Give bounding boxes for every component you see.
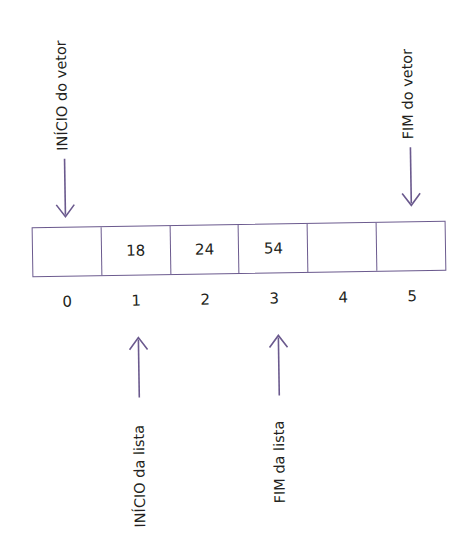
vector-start-label: INÍCIO do vetor <box>53 40 71 151</box>
array-index: 0 <box>33 292 102 311</box>
arrow-up-icon <box>126 335 151 401</box>
array-pointer-diagram: INÍCIO do vetor FIM do vetor 18 24 54 0 … <box>0 0 476 549</box>
array-cell <box>377 222 446 271</box>
array-index: 4 <box>309 288 378 307</box>
arrow-down-icon <box>53 157 78 221</box>
arrow-up-icon <box>266 333 291 399</box>
list-end-label: FIM da lista <box>271 421 288 504</box>
array-index: 3 <box>240 289 309 308</box>
array-index: 1 <box>102 291 171 310</box>
array-cell: 24 <box>170 225 240 274</box>
array-index: 2 <box>171 290 240 309</box>
list-start-label: INÍCIO da lista <box>131 425 149 528</box>
array-index: 5 <box>378 287 447 306</box>
array-cell: 18 <box>101 226 171 275</box>
vector-end-label: FIM do vetor <box>399 49 416 140</box>
array-box: 18 24 54 <box>32 221 447 277</box>
array-cell: 54 <box>239 224 309 273</box>
arrow-down-icon <box>398 145 423 209</box>
array-cell <box>308 223 378 272</box>
array-cell <box>33 227 103 276</box>
